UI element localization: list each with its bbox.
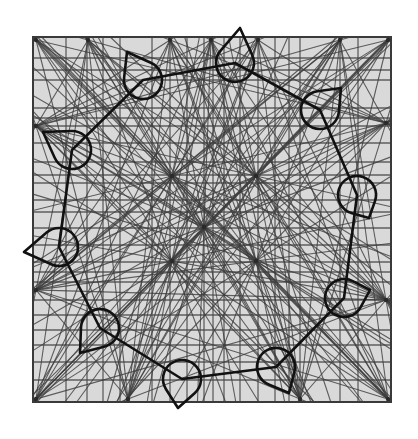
crease-vertex	[386, 38, 390, 42]
crease-vertex	[34, 397, 38, 401]
crease-vertex	[86, 38, 90, 42]
crease-vertex	[386, 397, 390, 401]
crease-pattern-diagram	[0, 0, 418, 439]
crease-vertex	[298, 397, 302, 401]
crease-vertex	[384, 298, 388, 302]
crease-vertex	[254, 174, 258, 178]
crease-vertex	[254, 259, 258, 263]
crease-vertex	[34, 124, 38, 128]
crease-vertex	[34, 288, 38, 292]
crease-vertex	[34, 38, 38, 42]
crease-vertex	[168, 38, 172, 42]
crease-vertex	[170, 174, 174, 178]
crease-vertex	[338, 38, 342, 42]
crease-vertex	[202, 225, 206, 229]
crease-vertex	[209, 38, 213, 42]
crease-vertex	[256, 38, 260, 42]
crease-vertex	[126, 397, 130, 401]
crease-vertex	[384, 121, 388, 125]
crease-vertex	[170, 259, 174, 263]
